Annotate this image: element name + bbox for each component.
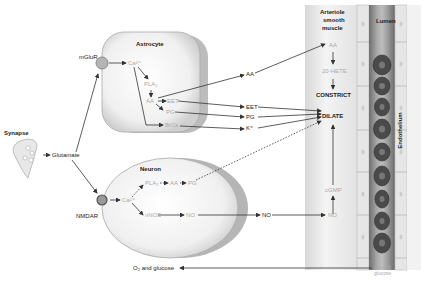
smooth-muscle-label-3: muscle — [322, 25, 343, 32]
nmdar-receptor — [97, 195, 107, 205]
astrocyte-eet: EET — [167, 98, 179, 105]
neuron-nnos: nNOS — [145, 212, 161, 219]
neuron-cell — [102, 158, 238, 258]
middle-pg: PG — [246, 114, 255, 121]
astrocyte-label: Astrocyte — [136, 41, 164, 48]
astrocyte-bkca: BKCa — [165, 122, 178, 129]
mglur-label: mGluR — [79, 54, 98, 61]
neuron-pg: PG — [188, 180, 197, 187]
astrocyte-pla2: PLA₂ — [144, 81, 158, 88]
nmdar-label: NMDAR — [76, 213, 98, 220]
lumen-o2-line2: glucose — [374, 270, 391, 277]
hete-label: 20-HETE — [322, 68, 347, 75]
smooth-muscle-no: NO — [328, 212, 337, 219]
neuron-ca: Ca²⁺ — [122, 197, 135, 204]
smooth-muscle-aa: AA — [329, 42, 337, 49]
astrocyte-aa: AA — [146, 98, 154, 105]
neuron-label: Neuron — [140, 166, 161, 173]
dilate-label: DILATE — [322, 113, 343, 120]
astrocyte-pg: PG — [166, 109, 175, 116]
endothelium-label: Endothelium — [397, 111, 404, 151]
lumen-label: Lumen — [376, 18, 396, 25]
glutamate-label: Glutamate — [52, 152, 80, 159]
neuron-no: NO — [186, 212, 195, 219]
middle-k: K⁺ — [246, 125, 253, 132]
astrocyte-ca: Ca²⁺ — [128, 60, 141, 67]
middle-aa: AA — [246, 71, 254, 78]
o2-glucose-label: O₂ and glucose — [133, 265, 174, 272]
neuron-pla2: PLA₂ — [145, 180, 159, 187]
endothelium-left — [357, 5, 369, 270]
constrict-label: CONSTRICT — [316, 92, 351, 99]
cgmp-label: cGMP — [325, 187, 342, 194]
synapse-label: Synapse — [4, 130, 29, 137]
middle-eet: EET — [246, 104, 258, 111]
middle-no: NO — [262, 212, 271, 219]
smooth-muscle-label-1: Arteriole — [320, 9, 345, 16]
neuron-aa: AA — [170, 180, 178, 187]
diagram-canvas — [0, 0, 434, 286]
smooth-muscle-label-2: smooth — [323, 17, 345, 24]
